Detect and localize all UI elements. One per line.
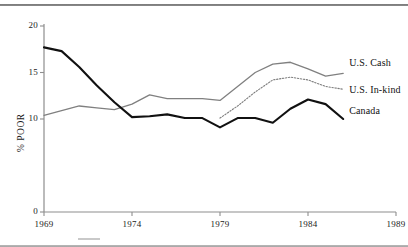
x-tick-label: 1969 (24, 219, 64, 229)
y-tick-label: 20 (6, 20, 38, 30)
x-tick-label: 1979 (200, 219, 240, 229)
line-chart: 0101520 19691974197919841989 % POOR U.S.… (0, 0, 408, 247)
chart-page: 0101520 19691974197919841989 % POOR U.S.… (0, 0, 408, 247)
series-line-u-s-cash (44, 62, 343, 115)
y-axis-title: % POOR (16, 113, 26, 152)
plot-canvas (0, 0, 408, 247)
series-label-canada: Canada (349, 105, 380, 116)
series-label-u-s-cash: U.S. Cash (349, 57, 391, 68)
series-label-u-s-in-kind: U.S. In-kind (349, 84, 401, 95)
x-tick-label: 1974 (112, 219, 152, 229)
y-tick-label: 15 (6, 67, 38, 77)
y-tick-label: 0 (6, 206, 38, 216)
x-tick-label: 1989 (376, 219, 408, 229)
series-layer (44, 47, 343, 127)
x-tick-label: 1984 (288, 219, 328, 229)
x-axis-ticks (44, 212, 396, 216)
series-line-u-s-in-kind (220, 77, 343, 118)
series-line-canada (44, 47, 343, 127)
